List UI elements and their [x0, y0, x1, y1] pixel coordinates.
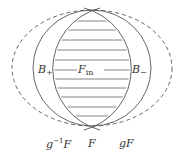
- label-f-in: Fin: [78, 64, 93, 77]
- label-g-inverse-f: g−1F: [46, 138, 71, 150]
- label-f: F: [88, 138, 96, 149]
- label-b-minus: B−: [132, 64, 147, 77]
- diagram-canvas: B+ Fin B− g−1F F gF: [0, 0, 184, 158]
- diagram-figure: [0, 0, 184, 158]
- label-g-f: gF: [119, 138, 134, 149]
- label-b-plus: B+: [38, 64, 53, 77]
